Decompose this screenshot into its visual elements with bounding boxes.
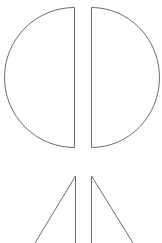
right-half-circle <box>92 8 160 148</box>
diagram-canvas <box>0 0 162 243</box>
left-half-triangle <box>35 176 76 243</box>
left-half-circle <box>5 8 75 148</box>
right-half-triangle <box>92 176 134 243</box>
